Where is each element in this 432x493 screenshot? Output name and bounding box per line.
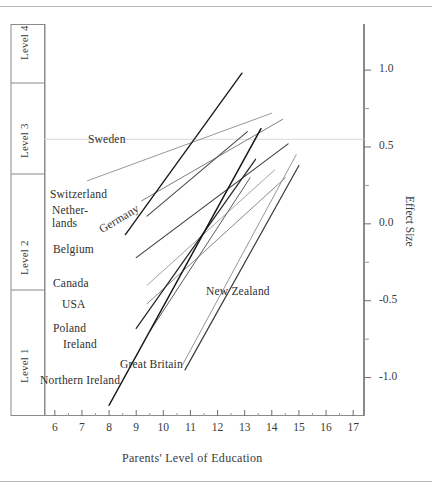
y-axis-title: Effect Size xyxy=(404,196,416,247)
top-rule xyxy=(0,6,432,7)
series-line-canada xyxy=(147,170,274,285)
y-tick-label: 1.0 xyxy=(379,62,393,74)
x-tick-label: 6 xyxy=(45,421,65,433)
x-tick-label: 17 xyxy=(343,421,363,433)
x-axis-title: Parents' Level of Education xyxy=(122,451,263,466)
y-tick-label: 0.5 xyxy=(379,139,393,151)
series-label-belgium: Belgium xyxy=(53,243,94,255)
series-line-netherlands xyxy=(147,132,247,217)
series-label-canada: Canada xyxy=(53,277,89,289)
series-label-netherlands-line1: Nether- xyxy=(52,204,88,216)
series-label-poland: Poland xyxy=(53,322,86,334)
series-label-new-zealand: New Zealand xyxy=(206,285,270,297)
series-line-new-zealand xyxy=(185,165,299,369)
x-tick-label: 16 xyxy=(316,421,336,433)
y-tick-label: 0.0 xyxy=(379,216,393,228)
level-band-label-1: Level 1 xyxy=(18,318,30,414)
series-line-sweden xyxy=(87,113,271,181)
x-tick-label: 9 xyxy=(126,421,146,433)
series-label-great-britain: Great Britain xyxy=(120,358,183,370)
x-tick-label: 15 xyxy=(289,421,309,433)
x-tick-label: 10 xyxy=(153,421,173,433)
series-label-northern-ireland: Northern Ireland xyxy=(40,374,120,386)
series-group xyxy=(87,73,299,405)
series-line-germany xyxy=(125,73,242,234)
x-tick-label: 11 xyxy=(180,421,200,433)
level-band-label-2: Level 2 xyxy=(18,208,30,308)
x-tick-label: 12 xyxy=(208,421,228,433)
x-tick-label: 13 xyxy=(235,421,255,433)
level-band-label-4: Level 4 xyxy=(18,8,30,78)
x-tick-label: 14 xyxy=(262,421,282,433)
series-label-ireland: Ireland xyxy=(63,338,97,350)
series-label-sweden: Sweden xyxy=(88,133,126,145)
series-label-switzerland: Switzerland xyxy=(50,188,107,200)
series-line-switzerland xyxy=(142,119,283,200)
series-label-usa: USA xyxy=(62,298,86,310)
series-label-netherlands-line2: lands xyxy=(52,217,77,229)
effect-size-axis xyxy=(364,24,378,416)
x-tick-label: 7 xyxy=(72,421,92,433)
y-tick-label: -0.5 xyxy=(379,293,397,305)
series-line-great-britain xyxy=(182,155,296,366)
level-band-label-3: Level 3 xyxy=(18,88,30,194)
x-tick-label: 8 xyxy=(99,421,119,433)
chart-figure: Level 4 Level 3 Level 2 Level 1 1.00.50.… xyxy=(0,0,432,493)
y-tick-label: -1.0 xyxy=(379,370,397,382)
bottom-rule xyxy=(0,481,432,482)
